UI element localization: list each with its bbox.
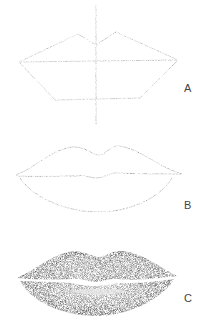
upper-lip-shaded: [17, 251, 178, 282]
figure-a-construction: [19, 5, 178, 125]
upper-lip-outline: [19, 32, 178, 62]
mouth-line: [16, 173, 182, 178]
figure-b-label: B: [184, 199, 191, 211]
lips-drawing-steps: [0, 0, 201, 325]
lower-lip-outline: [19, 60, 178, 100]
lower-lip-shaded: [20, 279, 174, 316]
figure-c-shaded: [17, 251, 178, 316]
figure-a-label: A: [184, 82, 191, 94]
figure-b-outline: [16, 146, 182, 212]
mouth-horizontal-line: [19, 60, 178, 62]
figure-c-label: C: [184, 292, 192, 304]
lower-lip-contour: [20, 178, 172, 212]
upper-lip-contour: [16, 146, 182, 175]
